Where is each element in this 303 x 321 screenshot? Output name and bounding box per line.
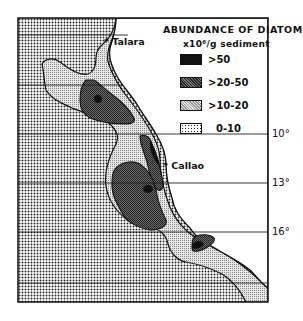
legend-swatch-dark xyxy=(180,77,202,88)
place-marker: * xyxy=(104,36,109,47)
legend-item-gt50: >50 xyxy=(180,53,230,66)
legend-swatch-light xyxy=(180,100,202,111)
legend-title: ABUNDANCE OF DIATOMS xyxy=(163,24,303,35)
legend-label: >10-20 xyxy=(208,100,248,111)
legend-swatch-dots xyxy=(180,123,202,134)
map-body xyxy=(18,18,272,302)
zone-50-north xyxy=(94,95,102,103)
legend-unit: x10⁶/g sediment xyxy=(183,39,270,49)
place-callao: * Callao xyxy=(163,160,204,171)
lat-label-16: 16° xyxy=(272,226,290,237)
place-name: Talara xyxy=(112,36,144,47)
lat-label-13: 13° xyxy=(272,177,290,188)
legend-item-10-20: >10-20 xyxy=(180,99,248,112)
place-name: Callao xyxy=(171,160,204,171)
place-marker: * xyxy=(163,160,168,171)
legend-label: >50 xyxy=(208,54,230,65)
legend-label: >20-50 xyxy=(208,77,248,88)
zone-50-central xyxy=(143,185,153,193)
legend-label: 0-10 xyxy=(216,123,241,134)
place-talara: * Talara xyxy=(104,36,145,47)
legend-item-20-50: >20-50 xyxy=(180,76,248,89)
legend-item-0-10: 0-10 xyxy=(180,122,241,135)
lat-label-10: 10° xyxy=(272,128,290,139)
legend-swatch-black xyxy=(180,54,202,65)
